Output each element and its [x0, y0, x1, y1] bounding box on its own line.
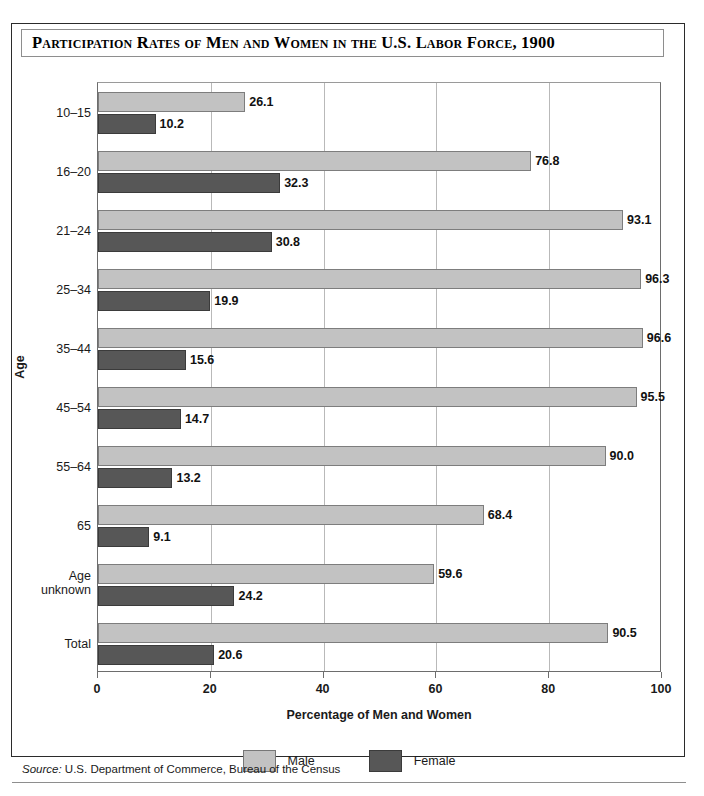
- source-note: Source: U.S. Department of Commerce, Bur…: [22, 763, 340, 775]
- bar-value-label: 76.8: [535, 154, 559, 168]
- y-category-label: 65: [0, 519, 91, 533]
- plot-wrapper: Age 02040608010026.110.276.832.393.130.8…: [12, 60, 686, 708]
- bar-female: [98, 350, 186, 370]
- source-text: U.S. Department of Commerce, Bureau of t…: [62, 763, 341, 775]
- page-title: Participation Rates of Men and Women in …: [22, 33, 555, 53]
- bar-male: [98, 92, 245, 112]
- x-tick-label: 80: [541, 682, 555, 696]
- y-category-label: 10–15: [0, 106, 91, 120]
- bar-male: [98, 387, 637, 407]
- x-tick-label: 40: [316, 682, 330, 696]
- bar-value-label: 13.2: [176, 471, 200, 485]
- bar-value-label: 9.1: [153, 530, 170, 544]
- gridline: [436, 83, 437, 671]
- bar-value-label: 15.6: [190, 353, 214, 367]
- legend-item: Female: [369, 750, 456, 772]
- bar-female: [98, 173, 280, 193]
- bar-value-label: 96.6: [647, 331, 671, 345]
- bar-female: [98, 645, 214, 665]
- x-tick-label: 20: [203, 682, 217, 696]
- bar-value-label: 26.1: [249, 95, 273, 109]
- y-category-label: Age unknown: [0, 569, 91, 597]
- bar-male: [98, 151, 531, 171]
- x-tick-label: 0: [94, 682, 101, 696]
- bar-value-label: 93.1: [627, 213, 651, 227]
- gridline: [549, 83, 550, 671]
- bar-female: [98, 291, 210, 311]
- bar-value-label: 90.5: [612, 626, 636, 640]
- bar-value-label: 59.6: [438, 567, 462, 581]
- plot-area: [97, 82, 661, 672]
- bar-male: [98, 623, 608, 643]
- y-category-label: 21–24: [0, 224, 91, 238]
- bar-value-label: 14.7: [185, 412, 209, 426]
- bar-value-label: 30.8: [276, 235, 300, 249]
- x-tick-label: 100: [651, 682, 672, 696]
- bar-value-label: 95.5: [641, 390, 665, 404]
- x-tick-mark: [435, 672, 436, 678]
- bar-value-label: 10.2: [160, 117, 184, 131]
- bar-female: [98, 468, 172, 488]
- chart-title-box: Participation Rates of Men and Women in …: [21, 29, 664, 57]
- x-axis-title: Percentage of Men and Women: [97, 708, 661, 722]
- x-tick-mark: [210, 672, 211, 678]
- x-tick-mark: [97, 672, 98, 678]
- x-tick-label: 60: [428, 682, 442, 696]
- bar-male: [98, 269, 641, 289]
- bar-value-label: 32.3: [284, 176, 308, 190]
- bar-female: [98, 586, 234, 606]
- y-category-label: 25–34: [0, 283, 91, 297]
- bar-male: [98, 210, 623, 230]
- bar-male: [98, 564, 434, 584]
- x-tick-mark: [323, 672, 324, 678]
- y-category-label: 35–44: [0, 342, 91, 356]
- y-category-label: 45–54: [0, 401, 91, 415]
- y-category-label: 55–64: [0, 460, 91, 474]
- bar-male: [98, 328, 643, 348]
- bar-value-label: 19.9: [214, 294, 238, 308]
- bar-male: [98, 446, 606, 466]
- bar-male: [98, 505, 484, 525]
- y-category-label: Total: [0, 637, 91, 651]
- bar-female: [98, 114, 156, 134]
- bar-value-label: 90.0: [610, 449, 634, 463]
- source-keyword: Source:: [22, 763, 62, 775]
- bar-value-label: 24.2: [238, 589, 262, 603]
- legend-label: Female: [414, 754, 456, 768]
- bar-female: [98, 232, 272, 252]
- legend-swatch: [369, 750, 402, 772]
- y-category-label: 16–20: [0, 165, 91, 179]
- x-tick-mark: [661, 672, 662, 678]
- bar-female: [98, 527, 149, 547]
- x-tick-mark: [548, 672, 549, 678]
- source-divider: [12, 782, 686, 783]
- bar-value-label: 96.3: [645, 272, 669, 286]
- y-axis-title: Age: [13, 355, 27, 379]
- bar-value-label: 68.4: [488, 508, 512, 522]
- bar-female: [98, 409, 181, 429]
- bar-value-label: 20.6: [218, 648, 242, 662]
- chart-figure: Participation Rates of Men and Women in …: [11, 23, 685, 757]
